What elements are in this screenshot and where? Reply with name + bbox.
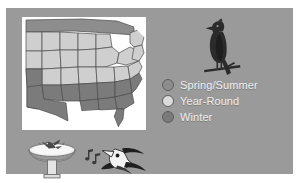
range-map: .st{stroke:#4a4a4a;stroke-width:0.7;stro… (22, 17, 146, 130)
music-note-icon (85, 149, 100, 164)
legend-item-winter[interactable]: Winter (162, 109, 287, 124)
legend-item-year-round[interactable]: Year-Round (162, 93, 287, 108)
screenshot-root: .st{stroke:#4a4a4a;stroke-width:0.7;stro… (0, 0, 300, 183)
circle-swatch-icon (162, 79, 174, 91)
singing-bird-head-icon (84, 138, 152, 182)
circle-swatch-icon (162, 95, 174, 107)
legend-item-label: Spring/Summer (180, 79, 258, 91)
bird-perched-silhouette-icon (196, 18, 248, 76)
legend-item-label: Year-Round (180, 95, 239, 107)
legend-item-spring-summer[interactable]: Spring/Summer (162, 77, 287, 92)
circle-swatch-icon (162, 111, 174, 123)
map-legend: Spring/Summer Year-Round Winter (162, 77, 287, 125)
legend-item-label: Winter (180, 111, 212, 123)
infographic-panel: .st{stroke:#4a4a4a;stroke-width:0.7;stro… (6, 8, 293, 174)
birdbath-icon (24, 134, 80, 179)
